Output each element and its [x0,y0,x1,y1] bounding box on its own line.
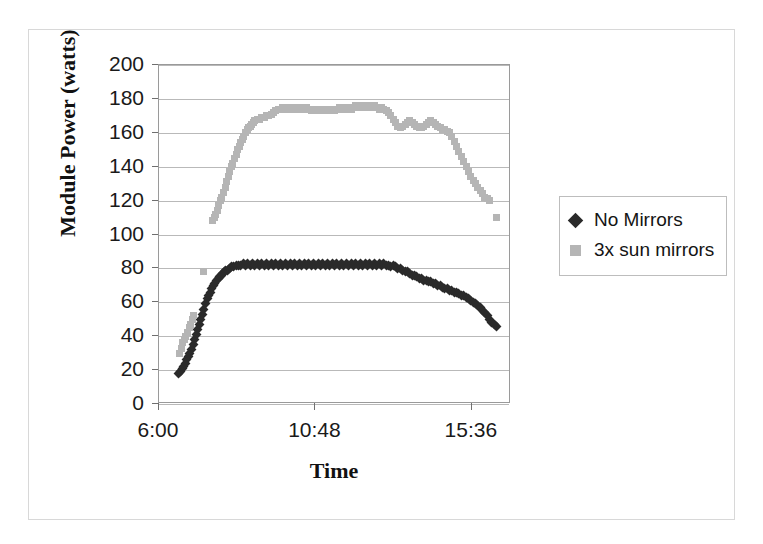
y-axis-title: Module Power (watts) [55,3,81,263]
x-axis-tick-mark [471,403,472,410]
legend-item: 3x sun mirrors [570,235,716,265]
data-point [493,214,500,221]
x-axis-tick-mark [158,403,159,410]
x-axis-tick-label: 10:48 [254,419,374,440]
y-axis-tick-label: 20 [121,358,144,379]
x-axis-title: Time [158,458,510,484]
y-axis-tick-label: 140 [109,155,144,176]
y-axis-tick-label: 120 [109,189,144,210]
x-axis-tick-label: 6:00 [98,419,218,440]
data-point [486,197,493,204]
legend-item: No Mirrors [570,205,716,235]
x-axis-tick-mark [314,403,315,410]
square-marker-icon [570,245,594,256]
data-point [200,268,207,275]
chart-legend: No Mirrors3x sun mirrors [559,196,727,276]
y-axis-tick-label: 40 [121,324,144,345]
plot-frame [158,64,510,403]
chart-area: Module Power (watts) 0204060801001201401… [0,0,763,544]
y-axis-tick-label: 0 [132,392,144,413]
diamond-marker-icon [570,215,594,226]
data-point [190,312,197,319]
y-axis-tick-label: 180 [109,87,144,108]
y-axis-tick-label: 160 [109,121,144,142]
y-axis-tick-label: 80 [121,256,144,277]
y-axis-tick-label: 60 [121,290,144,311]
y-axis-tick-label: 200 [109,53,144,74]
gridline [159,404,509,405]
legend-item-label: No Mirrors [594,209,683,231]
series-3x-sun-mirrors [159,65,509,402]
legend-item-label: 3x sun mirrors [594,239,714,261]
y-axis-tick-label: 100 [109,223,144,244]
x-axis-tick-label: 15:36 [411,419,531,440]
